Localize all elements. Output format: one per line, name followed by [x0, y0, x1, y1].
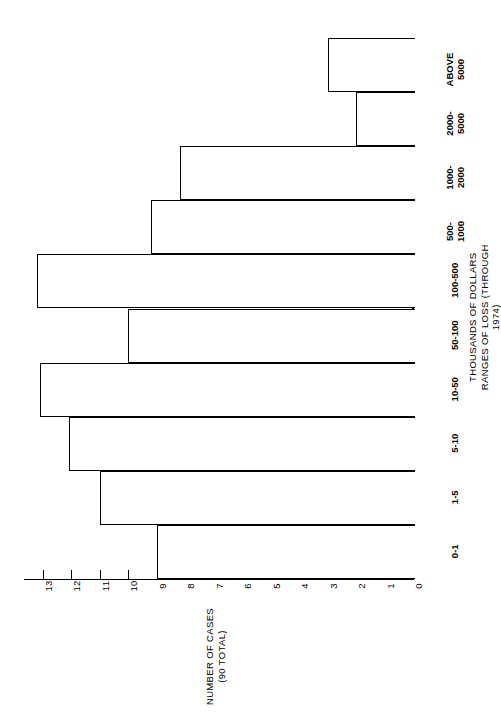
- bar: [151, 200, 415, 254]
- category-label: 0-1: [450, 519, 461, 583]
- bar: [37, 254, 415, 308]
- bar: [180, 146, 415, 200]
- bar: [40, 363, 415, 417]
- value-axis-tick-label: 11: [100, 573, 111, 599]
- bar: [69, 417, 415, 471]
- value-axis-tick-label: 10: [128, 573, 139, 599]
- bar: [328, 38, 415, 92]
- category-axis-title: THOUSANDS OF DOLLARS RANGES OF LOSS (THR…: [467, 237, 501, 397]
- value-axis-tick-label: 13: [43, 573, 54, 599]
- value-axis-title: NUMBER OF CASES (90 TOTAL): [204, 582, 227, 725]
- bar: [157, 525, 415, 579]
- bar: [100, 471, 415, 525]
- value-axis-tick-label: 12: [71, 573, 82, 599]
- bar: [128, 309, 415, 363]
- bar: [356, 92, 415, 146]
